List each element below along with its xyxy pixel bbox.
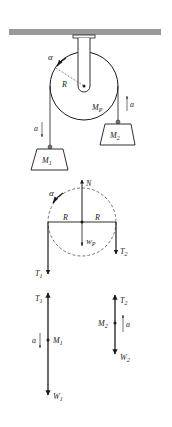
pulley-fbd: N WP R R α T1 T2 xyxy=(35,179,127,279)
accel-label-left: a xyxy=(34,124,38,133)
m2-dot xyxy=(114,322,117,325)
m2-mass-label: M2 xyxy=(97,319,108,329)
alpha-fbd-label: α xyxy=(49,188,54,198)
alpha-label: α xyxy=(48,52,53,62)
m1-accel-label: a xyxy=(32,336,36,345)
accel-label-right: a xyxy=(130,100,134,109)
radius-right-label: R xyxy=(94,213,100,222)
ceiling xyxy=(9,29,161,35)
hook-m1 xyxy=(48,145,52,149)
m1-weight-label: W1 xyxy=(53,392,63,402)
system-diagram: α R MP a a M1 M2 xyxy=(9,29,161,170)
mass1-fbd: T1 M1 a W1 xyxy=(32,293,63,402)
normal-force-label: N xyxy=(85,179,92,188)
m1-dot xyxy=(47,339,50,342)
weight-pulley-label: WP xyxy=(86,238,96,247)
alpha-fbd-arrow-icon xyxy=(53,193,63,203)
hook-m2 xyxy=(116,120,120,124)
m2-accel-label: a xyxy=(126,320,130,329)
physics-diagram: α R MP a a M1 M2 N WP R R α T1 T2 xyxy=(0,0,172,427)
radius-label: R xyxy=(61,80,67,89)
m1-mass-label: M1 xyxy=(52,336,63,346)
tension2-label: T2 xyxy=(120,247,127,257)
m2-tension-label: T2 xyxy=(120,296,127,306)
pulley-bracket xyxy=(78,38,90,92)
mount-plate xyxy=(73,35,95,38)
radius-left-label: R xyxy=(62,213,68,222)
m1-tension-label: T1 xyxy=(35,294,42,304)
mass2-fbd: T2 M2 a W2 xyxy=(97,295,130,363)
m2-weight-label: W2 xyxy=(120,353,130,363)
tension1-label: T1 xyxy=(35,269,42,279)
